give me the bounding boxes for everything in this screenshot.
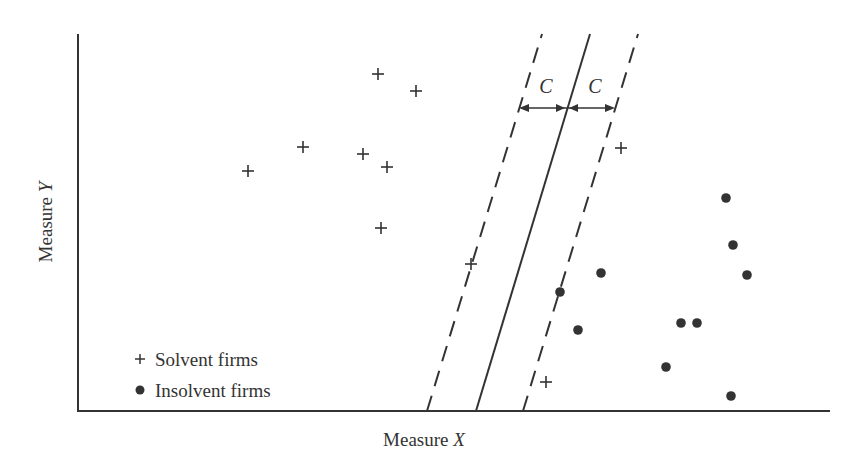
legend-dot-icon — [136, 386, 145, 395]
insolvent-point — [726, 391, 736, 401]
legend-label-solvent: Solvent firms — [155, 349, 258, 370]
x-axis-label: Measure X — [383, 429, 466, 450]
solvent-point — [410, 85, 422, 97]
legend-plus-icon — [135, 354, 145, 364]
solvent-point — [297, 141, 309, 153]
legend: Solvent firms Insolvent firms — [135, 349, 271, 401]
data-points — [242, 68, 752, 401]
solvent-point — [242, 165, 254, 177]
solvent-point — [540, 376, 552, 388]
solvent-point — [357, 148, 369, 160]
insolvent-point — [721, 193, 731, 203]
solvent-point — [615, 142, 627, 154]
insolvent-point — [742, 270, 752, 280]
solvent-point — [381, 161, 393, 173]
margin-left-line — [427, 34, 542, 411]
legend-label-insolvent: Insolvent firms — [155, 380, 271, 401]
solvent-point — [465, 258, 477, 270]
insolvent-point — [555, 287, 565, 297]
insolvent-point — [573, 325, 583, 335]
insolvent-point — [692, 318, 702, 328]
insolvent-point — [661, 362, 671, 372]
insolvent-point — [676, 318, 686, 328]
solvent-point — [372, 68, 384, 80]
margin-label-right: C — [588, 75, 602, 97]
margin-label-left: C — [539, 75, 553, 97]
solvent-point — [375, 222, 387, 234]
separator-line — [476, 34, 590, 411]
separating-lines — [427, 34, 638, 411]
y-axis-label: Measure Y — [35, 179, 56, 262]
insolvent-point — [728, 240, 738, 250]
insolvent-point — [596, 268, 606, 278]
svm-diagram: C C Solvent firms Insolvent firms Measur… — [0, 0, 867, 461]
